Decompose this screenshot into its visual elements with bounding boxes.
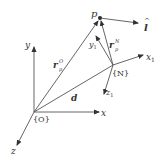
x1-axis (113, 55, 143, 65)
label-r-n-sub: p (115, 46, 119, 53)
z-axis (17, 112, 34, 145)
label-d: d (71, 93, 78, 103)
label-frame-n: {N} (112, 69, 129, 78)
label-x1: x1 (146, 52, 155, 63)
label-z: z (10, 146, 16, 156)
vector-l (100, 18, 138, 23)
vector-d (34, 65, 113, 112)
label-y: y (24, 40, 31, 50)
label-x: x (101, 108, 106, 118)
label-p: p (91, 8, 98, 19)
coordinate-frames-diagram: x y z {O} {N} x1 y1 z1 p d r O p r N p l… (0, 0, 164, 161)
label-r-o-sup: O (59, 58, 63, 64)
vector-r-o (34, 21, 98, 112)
frame-o-axes (17, 47, 99, 145)
label-y1: y1 (88, 40, 97, 50)
label-z1: z1 (105, 88, 113, 98)
label-r-n-sup: N (114, 38, 120, 44)
label-l-hat-accent: ^ (144, 17, 150, 25)
frame-n-axes (96, 36, 143, 94)
label-origin: {O} (33, 115, 50, 124)
